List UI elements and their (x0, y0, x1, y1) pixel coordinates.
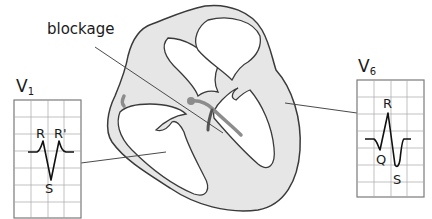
v6-lead-subscript: 6 (370, 66, 376, 77)
wall-mark (123, 96, 125, 106)
v1-lead-name: V (16, 76, 28, 96)
v6-s-label: S (393, 172, 401, 187)
blockage-label: blockage (47, 20, 114, 38)
heart (108, 5, 301, 211)
v1-r-prime-label: R' (54, 126, 67, 141)
v1-ecg-panel (14, 100, 81, 218)
v1-s-label: S (45, 181, 53, 196)
v1-lead-subscript: 1 (28, 86, 34, 97)
v6-q-label: Q (376, 152, 386, 167)
v1-r-label: R (36, 126, 45, 141)
diagram-canvas: blockage V1 R R' S V6 R Q S (0, 0, 432, 219)
v6-lead-name: V (358, 56, 370, 76)
v1-lead-label: V1 (16, 76, 34, 97)
v6-r-label: R (383, 96, 392, 111)
v6-lead-label: V6 (358, 56, 376, 77)
